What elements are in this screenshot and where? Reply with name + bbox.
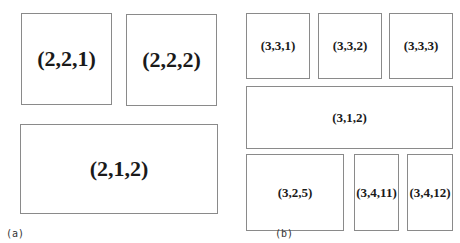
panel-caption: (b) — [275, 228, 293, 239]
subplot-label: (3,1,2) — [332, 110, 367, 126]
subplot-box: (3,2,5) — [246, 154, 344, 231]
subplot-label: (3,3,1) — [261, 38, 296, 54]
subplot-box: (2,2,2) — [126, 14, 217, 106]
subplot-box: (3,1,2) — [246, 86, 453, 149]
subplot-label: (2,2,2) — [142, 47, 201, 73]
subplot-box: (2,2,1) — [21, 13, 112, 105]
subplot-label: (3,4,12) — [409, 185, 450, 201]
subplot-box: (3,3,3) — [389, 13, 453, 79]
subplot-box: (3,3,1) — [246, 13, 310, 79]
panel-caption: (a) — [6, 228, 24, 239]
subplot-box: (3,4,12) — [407, 154, 453, 231]
subplot-box: (3,4,11) — [354, 154, 399, 231]
subplot-box: (3,3,2) — [318, 13, 382, 79]
subplot-label: (3,2,5) — [278, 185, 313, 201]
subplot-label: (3,3,3) — [404, 38, 439, 54]
subplot-label: (3,3,2) — [333, 38, 368, 54]
subplot-box: (2,1,2) — [20, 124, 218, 214]
subplot-label: (3,4,11) — [356, 185, 396, 201]
subplot-label: (2,2,1) — [37, 46, 96, 72]
subplot-label: (2,1,2) — [90, 156, 149, 182]
